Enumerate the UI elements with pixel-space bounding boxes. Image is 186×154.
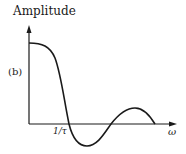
amplitude-diagram (0, 0, 186, 154)
panel-label: (b) (8, 66, 22, 77)
x-axis-label: ω (168, 126, 176, 137)
x-tick-label: 1/τ (53, 126, 67, 136)
amplitude-curve (29, 43, 155, 146)
y-axis-arrow-icon (27, 25, 32, 33)
y-axis-label: Amplitude (13, 4, 76, 18)
